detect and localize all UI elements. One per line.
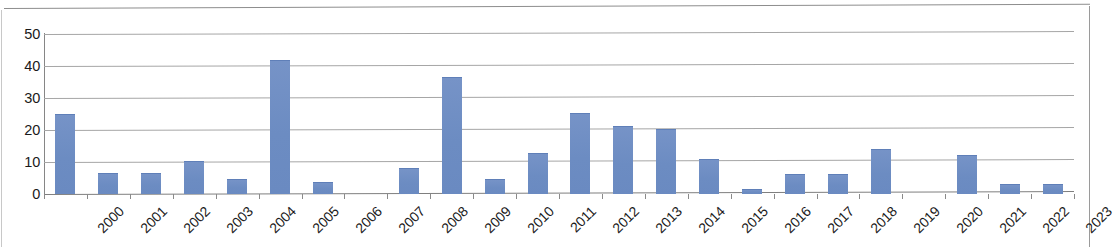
x-axis-tick-label: 2010: [524, 203, 557, 236]
x-axis-tick-mark: [473, 194, 474, 199]
x-axis-tick-label: 2001: [137, 203, 170, 236]
bar: [141, 173, 161, 194]
x-axis-tick-mark: [1074, 194, 1075, 199]
bar: [742, 189, 762, 194]
x-axis-tick-mark: [44, 194, 45, 199]
x-axis-tick-mark: [645, 194, 646, 199]
bar: [485, 179, 505, 194]
x-axis-tick-mark: [559, 194, 560, 199]
bar: [313, 182, 333, 194]
x-axis-tick-label: 2020: [953, 203, 986, 236]
bar: [1000, 184, 1020, 194]
x-axis-tick-mark: [602, 194, 603, 199]
x-axis-tick-label: 2022: [1039, 203, 1072, 236]
bar: [399, 168, 419, 194]
x-axis-tick-mark: [259, 194, 260, 199]
x-axis-tick-mark: [430, 194, 431, 199]
bar: [570, 113, 590, 194]
bar: [957, 155, 977, 194]
x-axis-tick-mark: [173, 194, 174, 199]
bar: [528, 153, 548, 194]
bar: [1043, 184, 1063, 194]
x-axis-tick-label: 2005: [309, 203, 342, 236]
x-axis-tick-mark: [817, 194, 818, 199]
bar: [785, 174, 805, 194]
bar: [871, 149, 891, 194]
x-axis-tick-mark: [302, 194, 303, 199]
x-axis-tick-mark: [945, 194, 946, 199]
x-axis-tick-label: 2013: [652, 203, 685, 236]
x-axis-tick-mark: [216, 194, 217, 199]
x-axis-tick-label: 2018: [867, 203, 900, 236]
x-axis-tick-mark: [1031, 194, 1032, 199]
x-axis-tick-label: 2003: [223, 203, 256, 236]
bar: [828, 174, 848, 194]
x-axis-tick-mark: [130, 194, 131, 199]
x-axis-tick-label: 2019: [910, 203, 943, 236]
gridline: [44, 63, 1074, 67]
x-axis-tick-label: 2006: [352, 203, 385, 236]
x-axis-tick-label: 2017: [824, 203, 857, 236]
bar: [442, 77, 462, 194]
x-axis-tick-mark: [387, 194, 388, 199]
bar: [184, 161, 204, 194]
x-axis-tick-label: 2011: [566, 203, 598, 235]
plot-area: [44, 34, 1074, 194]
x-axis-tick-mark: [344, 194, 345, 199]
bar: [55, 114, 75, 194]
x-axis-tick-mark: [87, 194, 88, 199]
x-axis-tick-mark: [859, 194, 860, 199]
bar: [656, 129, 676, 194]
y-axis-tick-label: 40: [6, 59, 40, 74]
gridline: [44, 95, 1074, 99]
x-axis-tick-label: 2009: [481, 203, 514, 236]
gridline: [44, 31, 1074, 35]
x-axis-tick-mark: [774, 194, 775, 199]
bar: [613, 126, 633, 194]
x-axis-tick-label: 2000: [94, 203, 127, 236]
x-axis-tick-mark: [988, 194, 989, 199]
x-axis-tick-label: 2014: [695, 203, 728, 236]
gridline: [44, 127, 1074, 131]
x-axis-tick-label: 2008: [438, 203, 471, 236]
x-axis-tick-label: 2016: [781, 203, 814, 236]
x-axis-tick-label: 2023: [1082, 203, 1115, 236]
x-axis-tick-label: 2007: [395, 203, 428, 236]
x-axis-tick-mark: [902, 194, 903, 199]
x-axis-tick-label: 2015: [738, 203, 771, 236]
x-axis-tick-label: 2021: [996, 203, 1029, 236]
y-axis-tick-label: 30: [6, 91, 40, 106]
x-axis-tick-label: 2004: [266, 203, 299, 236]
x-axis-tick-mark: [516, 194, 517, 199]
y-axis-tick-label: 0: [6, 187, 40, 202]
y-axis-tick-label: 10: [6, 155, 40, 170]
bar: [699, 159, 719, 194]
bar: [270, 60, 290, 194]
y-axis-tick-label: 50: [6, 27, 40, 42]
x-axis-tick-label: 2012: [609, 203, 642, 236]
y-axis-tick-label: 20: [6, 123, 40, 138]
x-axis: 2000200120022003200420052006200720082009…: [0, 203, 1092, 247]
x-axis-tick-mark: [688, 194, 689, 199]
bar: [98, 173, 118, 194]
x-axis-tick-mark: [731, 194, 732, 199]
x-axis-tick-label: 2002: [180, 203, 213, 236]
bar: [227, 179, 247, 194]
